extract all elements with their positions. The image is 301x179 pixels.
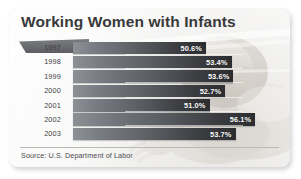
bar-track: 52.7% — [73, 85, 279, 98]
bar-track: 53.6% — [73, 70, 279, 83]
bar-row: 2000 52.7% — [21, 84, 279, 98]
bar-category-label: 2003 — [21, 129, 61, 138]
bar-track: 56.1% — [73, 113, 279, 126]
bar-row: 1998 53.4% — [21, 55, 279, 69]
bar-chart-plot-area: 1997 50.6% 1998 53.4% 1999 53.6% — [21, 41, 279, 142]
bar-track: 53.7% — [73, 128, 279, 141]
row-rule — [125, 125, 243, 126]
row-rule — [125, 54, 243, 55]
bar-value-label: 53.4% — [206, 58, 227, 67]
footer-divider — [20, 147, 279, 148]
bar-value-label: 53.7% — [210, 130, 231, 139]
bar-category-label: 1999 — [21, 72, 61, 81]
bar-row: 1999 53.6% — [21, 70, 279, 84]
row-rule — [125, 97, 243, 98]
bar-row: 2003 53.7% — [21, 127, 279, 141]
bar-value-label: 51.0% — [184, 101, 205, 110]
bar-category-label: 1998 — [21, 57, 61, 66]
source-note: Source: U.S. Department of Labor — [21, 151, 133, 160]
row-rule — [125, 111, 243, 112]
bar-track: 50.6% — [73, 42, 279, 55]
bar-category-label: 2000 — [21, 86, 61, 95]
bar-value-label: 50.6% — [181, 44, 202, 53]
chart-card: Working Women with Infants 1997 50.6% 19… — [9, 8, 290, 167]
bar-value-label: 56.1% — [230, 115, 251, 124]
bar-category-label: 1997 — [21, 43, 61, 52]
title-band: Working Women with Infants — [9, 8, 290, 38]
page-title: Working Women with Infants — [21, 13, 236, 31]
row-rule — [125, 68, 243, 69]
bar-track: 51.0% — [73, 99, 279, 112]
bar-value-label: 52.7% — [200, 87, 221, 96]
bar-row: 2002 56.1% — [21, 113, 279, 127]
bar-row: 2001 51.0% — [21, 99, 279, 113]
bar — [73, 113, 255, 126]
bar-row: 1997 50.6% — [21, 41, 279, 55]
bar-category-label: 2002 — [21, 115, 61, 124]
bar-value-label: 53.6% — [208, 72, 229, 81]
bar-category-label: 2001 — [21, 101, 61, 110]
row-rule — [125, 82, 243, 83]
bar-track: 53.4% — [73, 56, 279, 69]
